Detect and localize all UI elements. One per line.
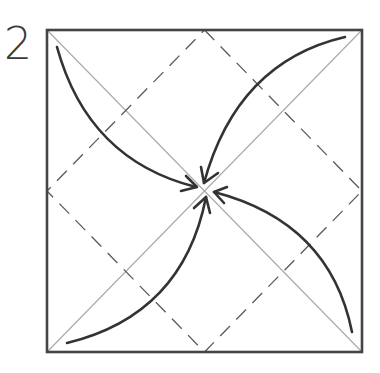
origami-diagram xyxy=(0,0,380,373)
arrowhead-icon xyxy=(201,167,218,183)
fold-arrow-bottom-right xyxy=(214,187,352,332)
fold-arrow-top-right xyxy=(201,37,345,183)
fold-arrow-bottom-left xyxy=(67,197,210,343)
fold-arrow-top-left xyxy=(57,47,197,191)
